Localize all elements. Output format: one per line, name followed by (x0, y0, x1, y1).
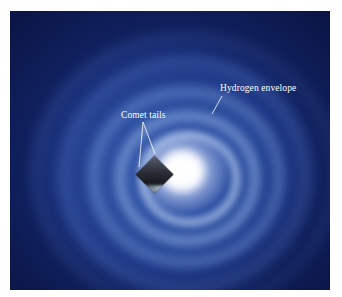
hydrogen-envelope-label: Hydrogen envelope (220, 83, 296, 93)
envelope-ring-3 (88, 86, 285, 268)
comet-tails-label: Comet tails (121, 110, 166, 120)
comet-image (10, 11, 330, 290)
envelope-ring-4 (115, 111, 260, 246)
comet-tail-streak (139, 185, 169, 192)
envelope-ring-outer (30, 31, 330, 290)
comet-tails-inset-image (135, 155, 173, 193)
